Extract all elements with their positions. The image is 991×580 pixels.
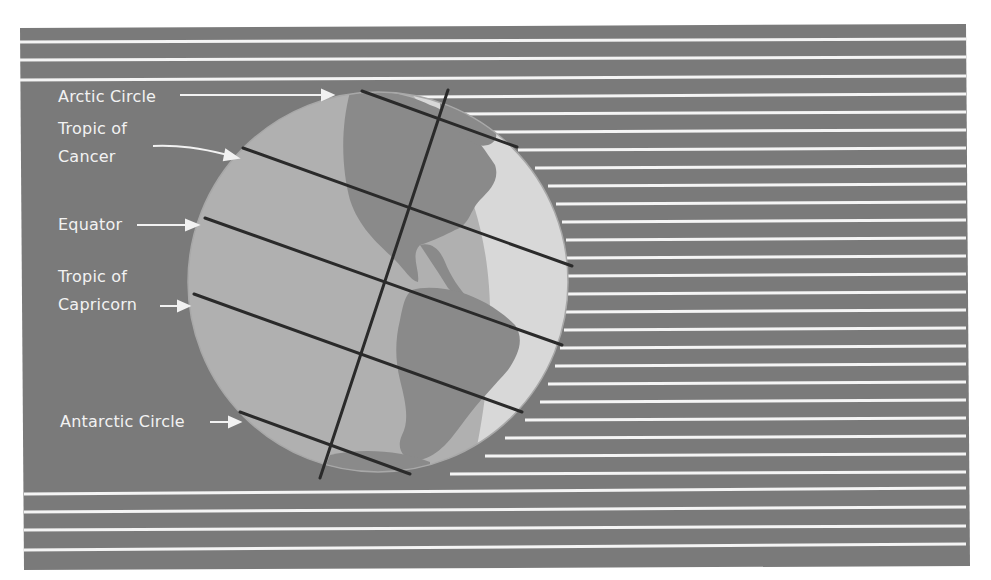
label-antarctic-circle: Antarctic Circle [60, 411, 185, 433]
label-equator: Equator [58, 214, 122, 236]
earth-tilt-diagram: Arctic Circle Tropic of Cancer Equator T… [0, 0, 991, 580]
label-tropic-of-cancer-line2: Cancer [58, 146, 116, 168]
label-tropic-of-capricorn-line2: Capricorn [58, 294, 137, 316]
label-arctic-circle: Arctic Circle [58, 86, 156, 108]
label-tropic-of-cancer-line1: Tropic of [58, 118, 127, 140]
label-tropic-of-capricorn-line1: Tropic of [58, 266, 127, 288]
